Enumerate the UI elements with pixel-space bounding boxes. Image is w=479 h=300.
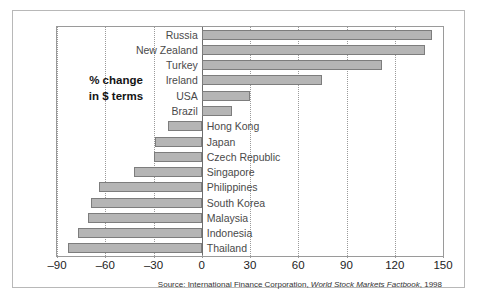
tick-mark--90 xyxy=(57,255,58,258)
bar-category-label: Czech Republic xyxy=(207,152,281,163)
x-tick-label: 0 xyxy=(199,259,205,271)
x-tick-label: 90 xyxy=(340,259,353,271)
bar-row: Philippines xyxy=(57,182,443,192)
bar-row: Turkey xyxy=(57,60,443,70)
bar-category-label: Philippines xyxy=(207,182,258,193)
bar xyxy=(202,60,382,70)
bar xyxy=(134,167,202,177)
bar-row: Hong Kong xyxy=(57,121,443,131)
x-tick-label: 150 xyxy=(433,259,452,271)
bar xyxy=(78,228,202,238)
plot-area: RussiaNew ZealandTurkeyIrelandUSABrazilH… xyxy=(56,26,444,257)
tick-mark-90 xyxy=(347,255,348,258)
bar-category-label: Turkey xyxy=(166,60,198,71)
bar xyxy=(91,198,202,208)
bar xyxy=(202,30,432,40)
bar xyxy=(168,121,202,131)
bar xyxy=(68,243,201,253)
bar-category-label: Malaysia xyxy=(207,213,248,224)
source-note: Source: International Finance Corporatio… xyxy=(56,280,442,289)
bar xyxy=(155,137,202,147)
caption-line-1: % change xyxy=(70,73,162,89)
bar-category-label: Japan xyxy=(207,137,236,148)
source-suffix: , 1998 xyxy=(420,280,442,289)
bar-row: Czech Republic xyxy=(57,152,443,162)
tick-mark-0 xyxy=(202,255,203,258)
x-tick-label: 60 xyxy=(292,259,305,271)
bar xyxy=(202,75,323,85)
tick-mark-150 xyxy=(443,255,444,258)
tick-mark--60 xyxy=(105,255,106,258)
tick-mark-30 xyxy=(250,255,251,258)
tick-mark-60 xyxy=(298,255,299,258)
bar-row: Japan xyxy=(57,137,443,147)
gridline-150 xyxy=(443,27,444,256)
caption-line-2: in $ terms xyxy=(70,89,162,105)
bar xyxy=(202,106,233,116)
bar-category-label: New Zealand xyxy=(136,45,198,56)
bar-category-label: Indonesia xyxy=(207,228,253,239)
bar-row: South Korea xyxy=(57,198,443,208)
bar-category-label: South Korea xyxy=(207,198,265,209)
chart-figure: RussiaNew ZealandTurkeyIrelandUSABrazilH… xyxy=(12,10,465,288)
x-axis: –90–60–300306090120150 xyxy=(56,259,444,277)
bar-category-label: Singapore xyxy=(207,167,255,178)
bar xyxy=(202,45,426,55)
bar-row: Russia xyxy=(57,30,443,40)
bar xyxy=(99,182,202,192)
x-tick-label: 30 xyxy=(244,259,257,271)
x-tick-label: 120 xyxy=(385,259,404,271)
bar-category-label: Hong Kong xyxy=(207,121,260,132)
bar-category-label: Thailand xyxy=(207,243,247,254)
bar xyxy=(154,152,202,162)
tick-mark--30 xyxy=(154,255,155,258)
bar-category-label: Ireland xyxy=(166,75,198,86)
bar-category-label: Brazil xyxy=(171,106,197,117)
bar xyxy=(88,213,202,223)
bar-row: Malaysia xyxy=(57,213,443,223)
bar-series: RussiaNew ZealandTurkeyIrelandUSABrazilH… xyxy=(57,27,443,256)
bar-row: Brazil xyxy=(57,106,443,116)
x-tick-label: –30 xyxy=(144,259,163,271)
source-prefix: Source: International Finance Corporatio… xyxy=(158,280,311,289)
bar xyxy=(202,91,250,101)
bar-row: Singapore xyxy=(57,167,443,177)
tick-mark-120 xyxy=(395,255,396,258)
bar-row: Indonesia xyxy=(57,228,443,238)
x-tick-label: –60 xyxy=(96,259,115,271)
bar-category-label: USA xyxy=(176,91,198,102)
x-tick-label: –90 xyxy=(47,259,66,271)
chart-caption: % change in $ terms xyxy=(70,73,162,104)
bar-row: Thailand xyxy=(57,243,443,253)
source-publication: World Stock Markets Factbook xyxy=(311,280,420,289)
bar-row: New Zealand xyxy=(57,45,443,55)
bar-category-label: Russia xyxy=(166,30,198,41)
